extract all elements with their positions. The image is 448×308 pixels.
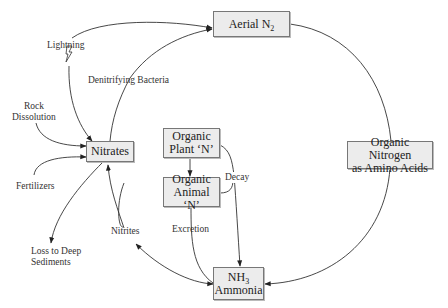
ammonia-label: Ammonia bbox=[215, 284, 263, 297]
node-organic-plant: Organic Plant ‘N’ bbox=[163, 128, 220, 158]
aerial-n2-subscript: 2 bbox=[270, 24, 274, 33]
rock-line1: Rock bbox=[12, 101, 56, 112]
loss-line2: Sediments bbox=[31, 257, 81, 268]
edge-lightning-to-aerial bbox=[72, 22, 212, 38]
edge-nitrates-to-loss bbox=[51, 162, 103, 243]
ammonia-formula: NH bbox=[228, 270, 245, 284]
node-organic-nitrogen: Organic Nitrogen as Amino Acids bbox=[347, 141, 433, 169]
label-rock-dissolution: Rock Dissolution bbox=[12, 101, 56, 123]
nitrates-label: Nitrates bbox=[91, 145, 129, 158]
label-loss-to-deep-sediments: Loss to Deep Sediments bbox=[31, 246, 81, 268]
node-aerial-n2: Aerial N2 bbox=[213, 11, 290, 37]
edge-organic-to-ammonia bbox=[265, 168, 390, 284]
organic-animal-line2: Animal ‘N’ bbox=[164, 186, 219, 212]
label-fertilizers: Fertilizers bbox=[16, 181, 55, 192]
organic-nitrogen-line1: Organic Nitrogen bbox=[348, 136, 432, 162]
edge-rock-to-nitrates bbox=[36, 123, 86, 146]
organic-nitrogen-line2: as Amino Acids bbox=[352, 162, 428, 175]
node-ammonia: NH3 Ammonia bbox=[213, 267, 264, 300]
organic-plant-line2: Plant ‘N’ bbox=[169, 143, 213, 156]
loss-line1: Loss to Deep bbox=[31, 246, 81, 257]
edge-excretion bbox=[191, 207, 213, 283]
label-lightning: Lightning bbox=[47, 40, 84, 51]
aerial-n2-label: Aerial N bbox=[229, 17, 271, 31]
label-excretion: Excretion bbox=[172, 224, 209, 235]
node-organic-animal: Organic Animal ‘N’ bbox=[163, 177, 220, 207]
node-nitrates: Nitrates bbox=[86, 141, 134, 162]
label-decay: Decay bbox=[225, 172, 249, 183]
rock-line2: Dissolution bbox=[12, 112, 56, 123]
label-nitrites: Nitrites bbox=[111, 226, 140, 237]
label-denitrifying-bacteria: Denitrifying Bacteria bbox=[88, 75, 169, 86]
edge-fertilizers-to-nitrates bbox=[34, 157, 86, 175]
edge-plant-decay bbox=[220, 145, 240, 266]
edge-aerial-to-organic bbox=[290, 24, 391, 141]
organic-animal-line1: Organic bbox=[172, 173, 210, 186]
